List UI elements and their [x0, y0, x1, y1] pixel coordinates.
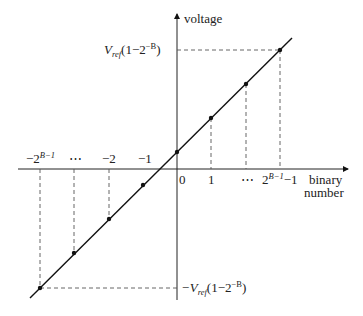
tick-minus-2: −2: [102, 151, 116, 166]
bottom-level-label: −Vref(1−2−B): [181, 279, 246, 297]
tick-0: 0: [179, 172, 186, 187]
transfer-diagram: voltage Vref(1−2−B) −Vref(1−2−B) 0 1 ⋯ 2…: [0, 0, 363, 316]
top-level-label: Vref(1−2−B): [104, 41, 161, 59]
tick-minus-1: −1: [138, 151, 152, 166]
x-axis-label-line2: number: [304, 185, 344, 200]
tick-max: 2B−1−1: [262, 171, 298, 187]
y-axis-label: voltage: [184, 11, 222, 26]
tick-dots-pos: ⋯: [241, 172, 254, 187]
transfer-line: [30, 38, 292, 298]
tick-min: −2B−1: [26, 150, 55, 166]
tick-1: 1: [208, 172, 215, 187]
tick-dots-neg: ⋯: [69, 151, 82, 166]
